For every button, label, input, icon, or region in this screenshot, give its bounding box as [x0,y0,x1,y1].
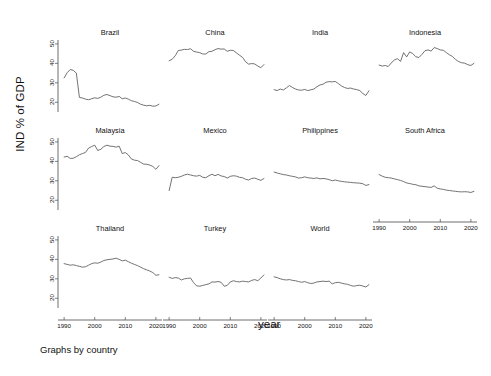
x-tick-label: 2000 [189,322,211,329]
panel-title: Mexico [163,126,267,135]
x-tick-label: 2020 [460,224,482,231]
y-tick-label: 20 [48,291,55,305]
chart-canvas: IND % of GDP year Graphs by country 2030… [0,0,491,376]
panel-world [268,277,372,320]
series-line [274,277,369,287]
y-tick-label: 30 [48,173,55,187]
series-line [274,81,369,95]
y-tick-label: 30 [48,75,55,89]
x-tick-label: 2010 [324,322,346,329]
panel-south-africa [373,175,477,222]
y-tick-label: 50 [48,36,55,50]
series-line [64,258,159,275]
x-tick-label: 2010 [219,322,241,329]
panel-india [274,81,369,95]
x-tick-label: 2000 [84,322,106,329]
x-tick-label: 1990 [53,322,75,329]
panel-title: World [268,224,372,233]
panel-thailand [55,236,162,320]
panel-indonesia [379,48,474,67]
y-tick-label: 20 [48,95,55,109]
series-line [379,175,474,193]
panel-title: Thailand [58,224,162,233]
series-line [169,49,264,68]
y-tick-label: 30 [48,271,55,285]
series-line [169,275,264,286]
x-tick-label: 1990 [158,322,180,329]
panel-title: Brazil [58,28,162,37]
panel-brazil [55,40,159,112]
panel-title: Indonesia [373,28,477,37]
panel-title: Turkey [163,224,267,233]
y-tick-label: 40 [48,252,55,266]
x-tick-label: 2020 [355,322,377,329]
panel-title: China [163,28,267,37]
series-line [64,145,159,169]
x-tick-label: 2010 [429,224,451,231]
y-tick-label: 50 [48,232,55,246]
panel-title: South Africa [373,126,477,135]
y-tick-label: 50 [48,134,55,148]
series-line [379,48,474,67]
panel-turkey [163,275,267,320]
y-tick-label: 40 [48,56,55,70]
panel-title: India [268,28,372,37]
x-tick-label: 2000 [294,322,316,329]
small-multiples-plot [0,0,491,376]
panel-philippines [274,172,369,185]
series-line [274,172,369,185]
panel-china [169,49,264,68]
x-tick-label: 2000 [399,224,421,231]
y-tick-label: 40 [48,154,55,168]
series-line [169,174,264,190]
y-tick-label: 20 [48,193,55,207]
panel-title: Malaysia [58,126,162,135]
panel-malaysia [55,138,159,210]
x-tick-label: 1990 [263,322,285,329]
panel-title: Philippines [268,126,372,135]
series-line [64,70,159,107]
panel-mexico [169,174,264,190]
x-tick-label: 2010 [114,322,136,329]
